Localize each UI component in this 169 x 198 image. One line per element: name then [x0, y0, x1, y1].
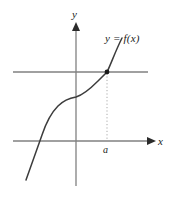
y-axis-arrowhead-icon	[72, 22, 80, 31]
x-axis-label: x	[158, 136, 163, 147]
y-axis-label: y	[72, 9, 77, 20]
x-axis-arrowhead-icon	[147, 137, 156, 145]
function-curve-label: y = f(x)	[105, 33, 140, 44]
x-tick-label-a: a	[103, 145, 108, 155]
graph-canvas	[0, 0, 169, 198]
marked-point	[105, 70, 110, 75]
function-curve	[26, 38, 122, 180]
function-graph-figure: y x a y = f(x)	[0, 0, 169, 198]
